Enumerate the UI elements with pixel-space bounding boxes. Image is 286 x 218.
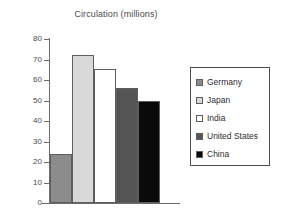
y-axis-tick-label-text: 20 — [12, 158, 42, 166]
y-axis-tick-label-text: 10 — [12, 179, 42, 187]
bar-germany — [50, 154, 72, 203]
x-axis-line — [42, 203, 180, 204]
legend-item-japan[interactable]: Japan — [196, 91, 269, 109]
plot-area — [50, 39, 160, 203]
y-axis-tick-label-text: 60 — [12, 76, 42, 84]
y-axis-tick-label-text: 80 — [12, 35, 42, 43]
y-axis-tick — [44, 60, 49, 61]
y-axis-tick-label: 40 — [8, 117, 42, 125]
legend-item-germany[interactable]: Germany — [196, 73, 269, 91]
y-axis-tick — [44, 142, 49, 143]
legend-swatch-icon — [196, 97, 203, 104]
y-axis-tick-label-text: 70 — [12, 56, 42, 64]
y-axis-tick-label-text: 0 — [12, 199, 42, 207]
y-axis-tick-label: 50 — [8, 97, 42, 105]
legend-item-label: United States — [207, 132, 258, 141]
chart-title: Circulation (millions) — [0, 9, 232, 19]
y-axis-tick-label: 10 — [8, 179, 42, 187]
legend-swatch-icon — [196, 133, 203, 140]
legend-item-label: China — [207, 150, 229, 159]
legend-swatch-icon — [196, 79, 203, 86]
legend-item-label: Germany — [207, 78, 242, 87]
bar-united-states — [116, 88, 138, 203]
y-axis-tick — [44, 162, 49, 163]
y-axis-tick-label: 70 — [8, 56, 42, 64]
legend-item-united-states[interactable]: United States — [196, 127, 269, 145]
y-axis-tick-label: 80 — [8, 35, 42, 43]
bar-japan — [72, 55, 94, 203]
legend-item-label: India — [207, 114, 225, 123]
y-axis-tick-label-text: 30 — [12, 138, 42, 146]
y-axis-tick-label: 20 — [8, 158, 42, 166]
y-axis-tick-label-text: 40 — [12, 117, 42, 125]
y-axis-tick — [44, 121, 49, 122]
bar-india — [94, 69, 116, 203]
y-axis-tick — [44, 183, 49, 184]
legend-swatch-icon — [196, 115, 203, 122]
legend-item-india[interactable]: India — [196, 109, 269, 127]
legend-swatch-icon — [196, 151, 203, 158]
chart-legend: GermanyJapanIndiaUnited StatesChina — [190, 67, 270, 166]
legend-item-label: Japan — [207, 96, 230, 105]
legend-item-china[interactable]: China — [196, 145, 269, 163]
y-axis-tick-label-text: 50 — [12, 97, 42, 105]
y-axis-tick-label: 0 — [8, 199, 42, 207]
y-axis-tick-label: 30 — [8, 138, 42, 146]
y-axis-tick — [44, 101, 49, 102]
y-axis-tick-label: 60 — [8, 76, 42, 84]
y-axis-tick — [44, 203, 49, 204]
bar-china — [138, 101, 160, 204]
y-axis-tick — [44, 80, 49, 81]
bar-chart: Circulation (millions) 01020304050607080… — [0, 0, 286, 218]
y-axis-tick — [44, 39, 49, 40]
